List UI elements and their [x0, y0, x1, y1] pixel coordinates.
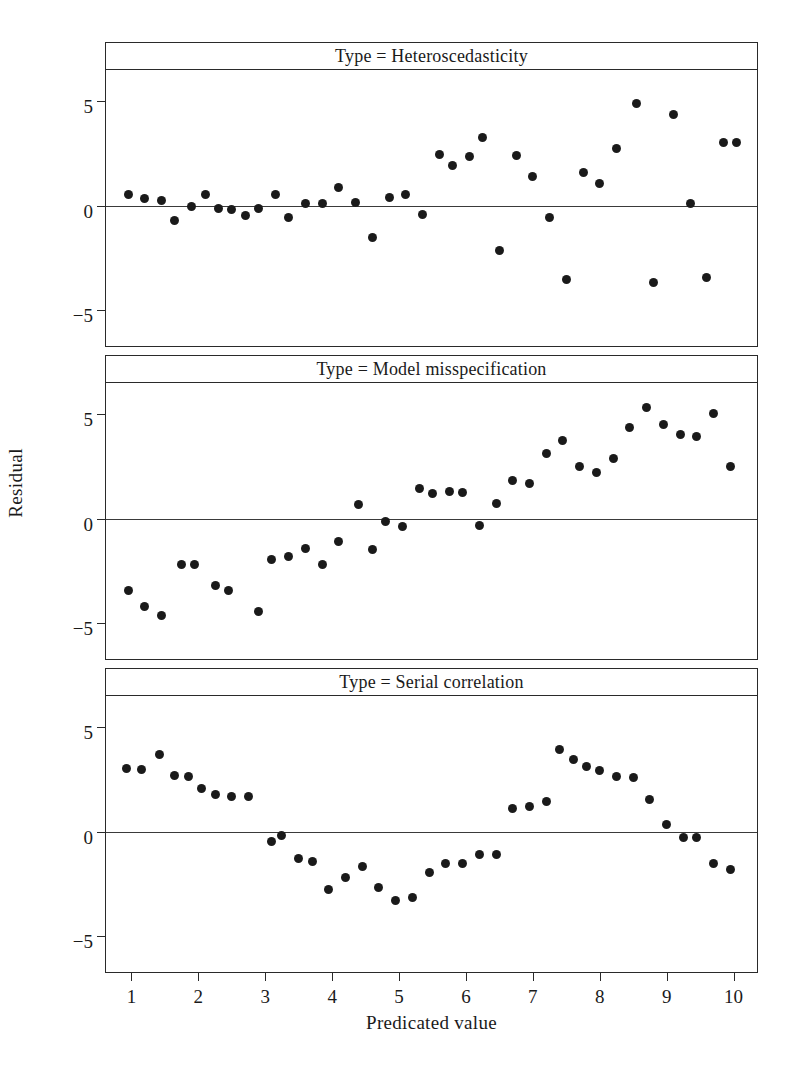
data-point	[267, 555, 276, 564]
data-point	[124, 190, 133, 199]
data-point	[308, 857, 317, 866]
data-point	[254, 204, 263, 213]
data-point	[381, 517, 390, 526]
data-point	[495, 246, 504, 255]
data-point	[475, 850, 484, 859]
x-axis-tick	[734, 972, 735, 981]
data-point	[358, 862, 367, 871]
data-point	[318, 199, 327, 208]
data-point	[277, 831, 286, 840]
panel-title-strip: Type = Heteroscedasticity	[105, 42, 758, 70]
panel-title-strip: Type = Serial correlation	[105, 668, 758, 696]
data-point	[445, 487, 454, 496]
data-point	[458, 859, 467, 868]
x-axis-tick	[265, 972, 266, 981]
zero-reference-line	[106, 519, 757, 520]
data-point	[428, 489, 437, 498]
data-point	[592, 468, 601, 477]
data-point	[385, 193, 394, 202]
data-point	[155, 750, 164, 759]
data-point	[318, 560, 327, 569]
data-point	[227, 205, 236, 214]
data-point	[391, 896, 400, 905]
data-point	[562, 275, 571, 284]
x-axis-tick	[533, 972, 534, 981]
data-point	[398, 522, 407, 531]
data-point	[702, 273, 711, 282]
data-point	[241, 211, 250, 220]
y-axis-tick	[97, 101, 106, 102]
x-axis-tick-label: 6	[446, 986, 486, 1008]
data-point	[425, 868, 434, 877]
data-point	[324, 885, 333, 894]
data-point	[612, 144, 621, 153]
y-axis-tick	[97, 727, 106, 728]
data-point	[334, 537, 343, 546]
data-point	[197, 784, 206, 793]
data-point	[211, 581, 220, 590]
data-point	[334, 183, 343, 192]
data-point	[227, 792, 236, 801]
data-point	[558, 436, 567, 445]
x-axis-tick-label: 2	[178, 986, 218, 1008]
data-point	[508, 476, 517, 485]
residual-plot-figure: Residual Predicated value Type = Heteros…	[0, 0, 804, 1070]
data-point	[692, 432, 701, 441]
data-point	[157, 196, 166, 205]
data-point	[709, 409, 718, 418]
data-point	[301, 199, 310, 208]
data-point	[435, 150, 444, 159]
data-point	[732, 138, 741, 147]
data-point	[542, 449, 551, 458]
data-point	[686, 199, 695, 208]
plot-area: 50−512345678910	[105, 695, 758, 973]
plot-area: 50−5	[105, 69, 758, 347]
data-point	[492, 499, 501, 508]
data-point	[612, 772, 621, 781]
panel-title-text: Type = Serial correlation	[339, 673, 523, 692]
y-axis-tick	[97, 414, 106, 415]
x-axis-tick	[399, 972, 400, 981]
data-point	[254, 607, 263, 616]
data-point	[124, 586, 133, 595]
data-point	[512, 151, 521, 160]
data-point	[629, 773, 638, 782]
data-point	[271, 190, 280, 199]
data-point	[170, 771, 179, 780]
x-axis-tick	[198, 972, 199, 981]
y-axis-tick	[97, 206, 106, 207]
data-point	[214, 204, 223, 213]
data-point	[709, 859, 718, 868]
data-point	[475, 521, 484, 530]
data-point	[659, 420, 668, 429]
data-point	[662, 820, 671, 829]
data-point	[726, 865, 735, 874]
x-axis-tick	[131, 972, 132, 981]
data-point	[401, 190, 410, 199]
x-axis-tick-label: 9	[647, 986, 687, 1008]
data-point	[508, 804, 517, 813]
y-axis-tick	[97, 832, 106, 833]
y-axis-label: Residual	[5, 423, 27, 543]
data-point	[140, 602, 149, 611]
data-point	[284, 552, 293, 561]
x-axis-tick	[332, 972, 333, 981]
data-point	[645, 795, 654, 804]
data-point	[545, 213, 554, 222]
y-axis-tick	[97, 936, 106, 937]
data-point	[122, 764, 131, 773]
data-point	[569, 755, 578, 764]
data-point	[669, 110, 678, 119]
data-point	[595, 766, 604, 775]
data-point	[465, 152, 474, 161]
data-point	[211, 790, 220, 799]
data-point	[575, 462, 584, 471]
plot-area: 50−5	[105, 382, 758, 660]
data-point	[368, 545, 377, 554]
x-axis-tick-label: 7	[513, 986, 553, 1008]
data-point	[579, 168, 588, 177]
data-point	[542, 797, 551, 806]
data-point	[190, 560, 199, 569]
data-point	[525, 479, 534, 488]
data-point	[341, 873, 350, 882]
